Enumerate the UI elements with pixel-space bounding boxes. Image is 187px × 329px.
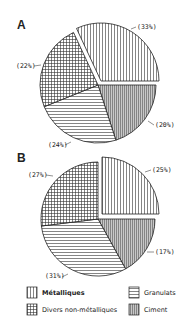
label-a-metalliques: (33%) [137,23,157,31]
label-b-divers: (27%) [28,171,48,179]
legend-item-metalliques: Métalliques [27,287,85,298]
label-a-granulats: (24%) [48,141,68,149]
pie-chart-a: A (33%) (20%) (24%) (22%) [16,18,175,149]
legend-item-granulats: Granulats [129,287,176,298]
slice-b-metalliques [102,157,159,214]
legend-label-granulats: Granulats [144,289,176,297]
legend-swatch-metalliques [27,287,37,298]
legend: Métalliques Granulats Divers non-métalli… [27,287,176,315]
legend-swatch-granulats [129,287,139,298]
label-a-divers: (22%) [16,62,36,70]
legend-swatch-divers [27,304,37,315]
legend-item-divers: Divers non-métalliques [27,304,118,315]
legend-label-divers: Divers non-métalliques [42,306,118,314]
label-b-granulats: (31%) [45,272,65,280]
legend-swatch-ciment [129,304,139,315]
legend-item-ciment: Ciment [129,304,168,315]
pie-charts-figure: A (33%) (20%) (24%) (22%) B (25%) (17%) … [0,0,187,329]
panel-label-a: A [17,18,26,32]
label-b-metalliques: (25%) [152,166,172,174]
panel-label-b: B [17,151,26,165]
legend-label-metalliques: Métalliques [42,289,85,297]
label-a-ciment: (20%) [155,121,175,129]
label-b-ciment: (17%) [155,248,175,256]
pie-chart-b: B (25%) (17%) (31%) (27%) [17,151,175,280]
legend-label-ciment: Ciment [144,306,168,314]
slice-b-divers [41,162,98,226]
